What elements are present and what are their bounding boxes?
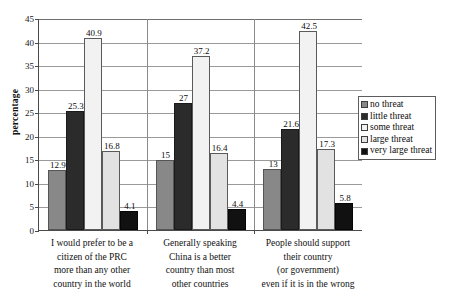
bar-value-label: 17.3: [309, 139, 345, 149]
legend-label: very large threat: [370, 145, 432, 157]
legend-label: no threat: [370, 99, 404, 111]
bar-value-label: 16.4: [202, 143, 238, 153]
x-axis-category-labels: I would prefer to be acitizen of the PRC…: [38, 237, 362, 291]
legend-label: some threat: [370, 122, 414, 134]
legend-swatch-icon: [361, 148, 368, 155]
bar-group: 12.925.340.916.84.1: [39, 19, 147, 230]
bar-group: 152737.216.44.4: [147, 19, 255, 230]
bar-some-threat: 40.9: [84, 38, 102, 230]
bar-large-threat: 16.8: [102, 151, 120, 230]
legend-label: little threat: [370, 111, 411, 123]
bar-no-threat: 13: [263, 169, 281, 230]
bar-some-threat: 42.5: [299, 31, 317, 230]
legend-item: large threat: [361, 134, 432, 146]
bar-little-threat: 27: [174, 103, 192, 230]
bar-large-threat: 16.4: [210, 153, 228, 230]
legend-item: very large threat: [361, 145, 432, 157]
plot-area: 051015202530354045 12.925.340.916.84.115…: [38, 19, 362, 231]
bar-value-label: 42.5: [291, 21, 327, 31]
x-axis-category-label: I would prefer to be acitizen of the PRC…: [38, 237, 146, 291]
bar-groups: 12.925.340.916.84.1152737.216.44.41321.6…: [39, 19, 362, 230]
bar-large-threat: 17.3: [317, 149, 335, 230]
x-axis-tick-mark: [254, 230, 255, 234]
legend: no threatlittle threatsome threatlarge t…: [358, 96, 436, 160]
x-axis-category-label: People should supporttheir country(or go…: [254, 237, 362, 291]
x-axis-category-label: Generally speakingChina is a bettercount…: [146, 237, 254, 291]
legend-swatch-icon: [361, 124, 368, 131]
bar-value-label: 4.1: [112, 201, 148, 211]
y-axis-title: percentage: [10, 76, 20, 148]
bar-no-threat: 12.9: [48, 170, 66, 230]
y-axis-tick-mark: [35, 231, 39, 232]
bar-value-label: 37.2: [184, 46, 220, 56]
bar-very-large-threat: 4.4: [228, 209, 246, 230]
bar-value-label: 5.8: [327, 193, 363, 203]
legend-item: some threat: [361, 122, 432, 134]
bar-value-label: 4.4: [220, 199, 256, 209]
legend-item: little threat: [361, 111, 432, 123]
bar-group: 1321.642.517.35.8: [254, 19, 362, 230]
bar-no-threat: 15: [156, 160, 174, 230]
legend-swatch-icon: [361, 101, 368, 108]
bar-value-label: 16.8: [94, 141, 130, 151]
legend-label: large threat: [370, 134, 413, 146]
bar-little-threat: 25.3: [66, 111, 84, 230]
bar-value-label: 40.9: [76, 28, 112, 38]
legend-swatch-icon: [361, 113, 368, 120]
bar-little-threat: 21.6: [281, 129, 299, 230]
legend-swatch-icon: [361, 136, 368, 143]
bar-very-large-threat: 5.8: [335, 203, 353, 230]
bar-very-large-threat: 4.1: [120, 211, 138, 230]
bar-chart: percentage 051015202530354045 12.925.340…: [0, 0, 461, 298]
x-axis-tick-mark: [147, 230, 148, 234]
legend-item: no threat: [361, 99, 432, 111]
